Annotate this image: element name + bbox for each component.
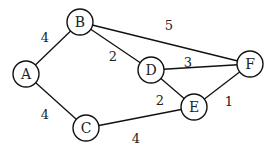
node-label: C	[81, 120, 92, 136]
edge-weight-d-f: 3	[184, 55, 192, 70]
node-label: A	[20, 66, 32, 82]
edge-weight-d-e: 2	[156, 93, 164, 108]
edge-d-f	[151, 64, 250, 70]
edge-c-e	[86, 107, 194, 128]
weighted-graph-diagram: 44253214 ABCDEF	[0, 0, 275, 150]
edge-weight-a-c: 4	[41, 107, 49, 122]
edge-weight-e-f: 1	[225, 94, 233, 109]
edge-weight-b-f: 5	[165, 18, 173, 33]
node-label: F	[245, 56, 255, 72]
edge-weight-c-e: 4	[132, 131, 140, 146]
node-f: F	[237, 51, 263, 77]
node-label: B	[75, 14, 85, 30]
edge-weight-a-b: 4	[41, 30, 49, 45]
node-label: E	[189, 99, 199, 115]
node-a: A	[13, 61, 39, 87]
node-d: D	[138, 57, 164, 83]
edges-layer	[26, 22, 250, 128]
node-c: C	[73, 115, 99, 141]
node-b: B	[67, 9, 93, 35]
node-e: E	[181, 94, 207, 120]
nodes-layer: ABCDEF	[13, 9, 263, 141]
edge-weight-b-d: 2	[109, 49, 117, 64]
node-label: D	[145, 62, 156, 78]
